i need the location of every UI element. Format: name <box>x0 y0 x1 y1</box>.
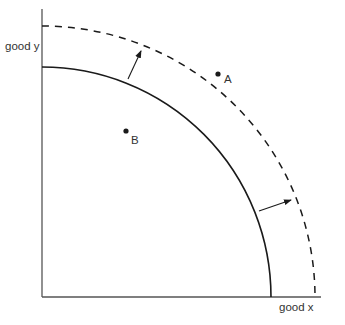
point-b-dot <box>123 128 128 133</box>
shift-arrow-upper <box>128 51 141 79</box>
ppf-diagram <box>0 0 345 325</box>
point-b-label: B <box>131 134 139 146</box>
y-axis-label: good y <box>5 40 40 52</box>
point-a-label: A <box>224 73 232 85</box>
original-frontier-curve <box>42 67 271 297</box>
shift-arrow-right <box>259 200 291 211</box>
shifted-frontier-curve <box>42 26 315 297</box>
x-axis-label: good x <box>279 301 314 313</box>
point-a-dot <box>215 71 220 76</box>
